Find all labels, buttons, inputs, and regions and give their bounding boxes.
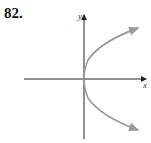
x-axis-label: x: [142, 80, 147, 90]
graph: y x: [0, 0, 151, 143]
y-axis-label: y: [77, 11, 82, 21]
parabola-upper-arrow: [88, 28, 138, 60]
